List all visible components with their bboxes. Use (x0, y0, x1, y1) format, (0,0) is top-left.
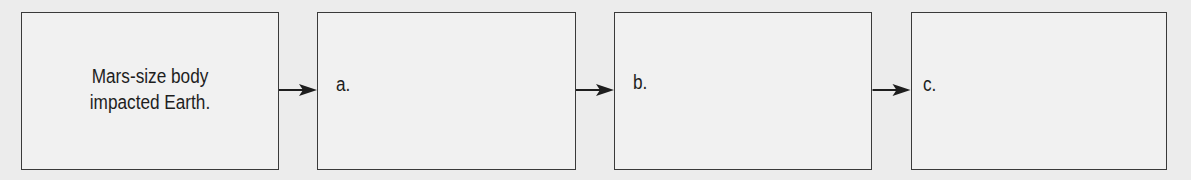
box-start: Mars-size body impacted Earth. (21, 12, 279, 170)
box-a-label: a. (336, 71, 350, 97)
box-start-text: Mars-size body impacted Earth. (40, 63, 260, 115)
arrow-icon (279, 84, 317, 96)
box-a: a. (317, 12, 576, 170)
box-start-line2: impacted Earth. (40, 89, 260, 115)
box-b: b. (614, 12, 872, 170)
box-b-label: b. (633, 69, 647, 95)
box-start-line1: Mars-size body (40, 63, 260, 89)
box-c: c. (911, 12, 1167, 170)
box-c-label: c. (923, 71, 936, 97)
arrow-icon (576, 84, 614, 96)
arrow-icon (872, 84, 911, 96)
